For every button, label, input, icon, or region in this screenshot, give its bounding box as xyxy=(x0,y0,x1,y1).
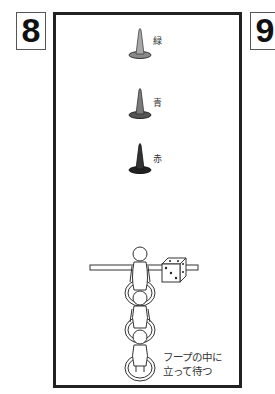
diagram-scene xyxy=(0,0,275,394)
cone-label-green: 緑 xyxy=(153,34,162,47)
cone-label-red: 赤 xyxy=(153,152,162,165)
cone-red-icon xyxy=(129,144,151,174)
cone-blue-icon xyxy=(129,89,151,119)
cone-label-blue: 青 xyxy=(153,96,162,109)
cone-green-icon xyxy=(129,29,151,59)
dice-icon xyxy=(162,258,186,282)
figures xyxy=(130,247,150,372)
instruction-caption: フープの中に 立って待つ xyxy=(163,350,222,378)
